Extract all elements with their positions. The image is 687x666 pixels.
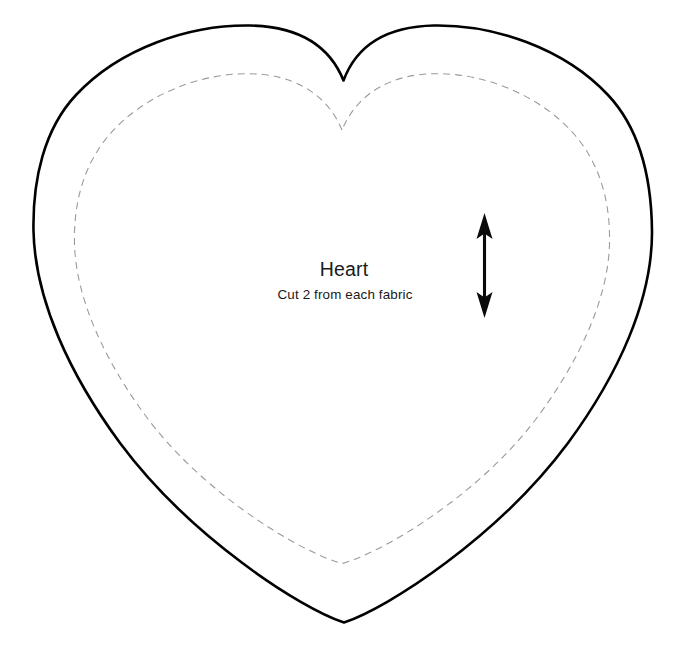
pattern-canvas: Heart Cut 2 from each fabric [0,0,687,666]
pattern-piece-title: Heart [320,258,369,280]
pattern-cut-instruction: Cut 2 from each fabric [277,287,412,302]
canvas-background [0,0,687,666]
heart-pattern-drawing: Heart Cut 2 from each fabric [0,0,687,666]
